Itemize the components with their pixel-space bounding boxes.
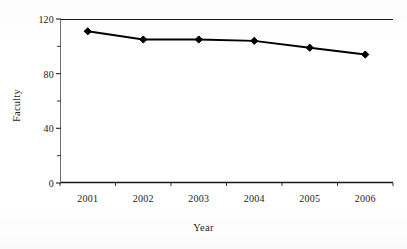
- line-chart-figure: Faculty 04080120 20012002200320042005200…: [0, 0, 407, 249]
- y-axis-tick-label: 80: [18, 68, 54, 79]
- x-axis-tick-label: 2003: [188, 193, 209, 204]
- plot-area: [60, 19, 393, 183]
- data-point-marker: [195, 36, 202, 43]
- data-point-markers: [84, 28, 369, 58]
- data-point-marker: [306, 44, 313, 51]
- x-axis-tick-labels: 200120022003200420052006: [60, 193, 393, 211]
- x-axis-tick-label: 2005: [299, 193, 320, 204]
- x-axis-tick-label: 2001: [77, 193, 98, 204]
- y-axis-tick-label: 0: [18, 178, 54, 189]
- x-axis-tick-label: 2002: [133, 193, 154, 204]
- y-axis-tick-labels: 04080120: [18, 0, 54, 249]
- data-point-marker: [140, 36, 147, 43]
- x-axis-title: Year: [0, 222, 407, 233]
- y-axis-tick-label: 40: [18, 123, 54, 134]
- x-axis-title-text: Year: [193, 222, 214, 233]
- data-point-marker: [84, 28, 91, 35]
- x-axis-tick-label: 2006: [355, 193, 376, 204]
- data-point-marker: [362, 51, 369, 58]
- plot-svg: [60, 19, 393, 183]
- data-point-marker: [251, 37, 258, 44]
- y-axis-tick-label: 120: [18, 14, 54, 25]
- x-axis-tick-marks: [60, 183, 393, 186]
- x-axis-tick-label: 2004: [244, 193, 265, 204]
- data-series-line: [88, 31, 366, 54]
